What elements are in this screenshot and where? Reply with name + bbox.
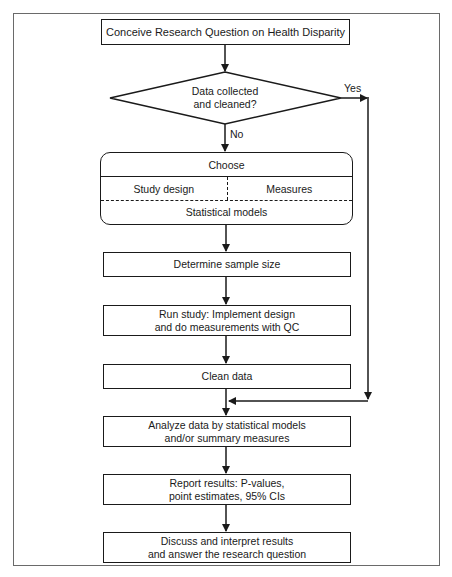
choose-statistical-models: Statistical models	[101, 201, 352, 223]
step-run-study: Run study: Implement design and do measu…	[103, 305, 351, 336]
step-line1: Report results: P-values,	[170, 477, 285, 490]
step-line2: and/or summary measures	[165, 432, 290, 445]
step-line1: Run study: Implement design	[159, 308, 295, 321]
decision-line1: Data collected	[170, 85, 280, 98]
no-label: No	[230, 128, 243, 140]
start-label: Conceive Research Question on Health Dis…	[106, 26, 345, 39]
step-discuss: Discuss and interpret results and answer…	[103, 532, 351, 563]
start-box: Conceive Research Question on Health Dis…	[101, 19, 350, 45]
step-line1: Determine sample size	[174, 258, 281, 271]
choose-box: Choose Study design Measures Statistical…	[100, 152, 353, 225]
step-line2: and answer the research question	[148, 548, 306, 561]
choose-title: Choose	[101, 153, 352, 176]
step-analyze: Analyze data by statistical models and/o…	[103, 416, 351, 447]
decision-line2: and cleaned?	[170, 98, 280, 111]
step-report: Report results: P-values, point estimate…	[103, 474, 351, 505]
step-line1: Analyze data by statistical models	[148, 419, 306, 432]
choose-measures: Measures	[227, 177, 353, 200]
choose-study-design: Study design	[101, 177, 227, 200]
decision-text: Data collected and cleaned?	[170, 85, 280, 111]
yes-label: Yes	[344, 82, 361, 94]
step-sample-size: Determine sample size	[103, 252, 351, 277]
step-line2: point estimates, 95% CIs	[169, 490, 285, 503]
step-line1: Discuss and interpret results	[161, 535, 293, 548]
step-line2: and do measurements with QC	[155, 321, 300, 334]
step-clean-data: Clean data	[103, 364, 351, 389]
step-line1: Clean data	[202, 370, 253, 383]
